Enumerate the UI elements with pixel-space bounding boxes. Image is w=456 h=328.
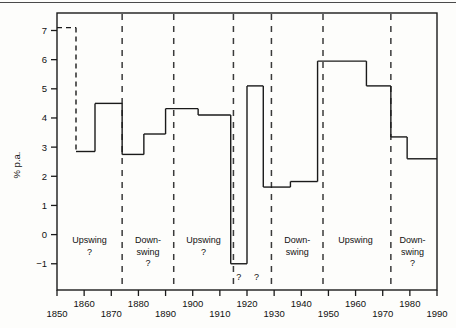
x-tick-label: 1980 <box>399 298 420 309</box>
x-axis-ticks: 1850186018701880189019001910192019301940… <box>46 290 447 319</box>
phase-label: swing <box>286 247 309 257</box>
x-tick-label: 1860 <box>74 298 95 309</box>
x-tick-label: 1960 <box>345 298 366 309</box>
phase-label: Upswing <box>338 235 373 245</box>
y-tick-label: 7 <box>42 25 47 36</box>
y-tick-label: 5 <box>42 83 47 94</box>
chart-container: −101234567 18501860187018801890190019101… <box>0 0 456 328</box>
y-axis-title-text: % p.a. <box>11 152 22 179</box>
phase-label: ? <box>410 258 415 268</box>
y-tick-label: 2 <box>42 171 47 182</box>
x-tick-label: 1870 <box>101 308 122 319</box>
x-tick-label: 1920 <box>236 298 257 309</box>
phase-label: swing <box>401 247 424 257</box>
phase-annotations: Upswing?Down-swing?Upswing?Down-swingUps… <box>72 235 425 268</box>
y-tick-label: 4 <box>42 112 47 123</box>
y-axis-title: % p.a. <box>11 152 22 179</box>
y-tick-label: 1 <box>42 200 47 211</box>
data-series-step-line <box>57 28 437 264</box>
y-axis-ticks: −101234567 <box>36 25 57 269</box>
point-question-mark: ? <box>236 272 241 282</box>
y-tick-label: 0 <box>42 229 47 240</box>
phase-label: Down- <box>284 235 310 245</box>
phase-label: ? <box>87 247 92 257</box>
x-tick-label: 1890 <box>155 308 176 319</box>
phase-label: Upswing <box>72 235 107 245</box>
step-chart-figure: −101234567 18501860187018801890190019101… <box>0 0 456 328</box>
phase-label: swing <box>136 247 159 257</box>
x-tick-label: 1880 <box>128 298 149 309</box>
point-question-mark: ? <box>254 272 259 282</box>
x-tick-label: 1850 <box>46 308 67 319</box>
x-tick-label: 1910 <box>209 308 230 319</box>
x-tick-label: 1990 <box>426 308 447 319</box>
phase-label: Upswing <box>186 235 221 245</box>
y-tick-label: −1 <box>36 258 47 269</box>
phase-label: ? <box>201 247 206 257</box>
x-tick-label: 1930 <box>264 308 285 319</box>
phase-label: Down- <box>400 235 426 245</box>
x-tick-label: 1940 <box>291 298 312 309</box>
phase-label: Down- <box>135 235 161 245</box>
phase-divider-lines <box>122 14 391 289</box>
x-tick-label: 1970 <box>372 308 393 319</box>
y-tick-label: 6 <box>42 54 47 65</box>
point-annotations: ?? <box>236 272 259 282</box>
phase-label: ? <box>145 258 150 268</box>
y-tick-label: 3 <box>42 142 47 153</box>
x-tick-label: 1950 <box>318 308 339 319</box>
x-tick-label: 1900 <box>182 298 203 309</box>
